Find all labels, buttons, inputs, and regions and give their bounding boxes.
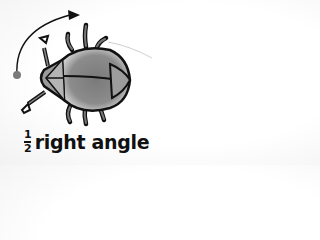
angle-label: 1 2 right angle <box>24 130 149 154</box>
angle-label-text: right angle <box>35 131 150 153</box>
fraction-numerator: 1 <box>24 130 32 140</box>
fraction-half: 1 2 <box>24 130 32 154</box>
start-dot-icon <box>13 71 21 79</box>
fraction-denominator: 2 <box>24 144 32 154</box>
bug-body-icon <box>62 48 130 110</box>
